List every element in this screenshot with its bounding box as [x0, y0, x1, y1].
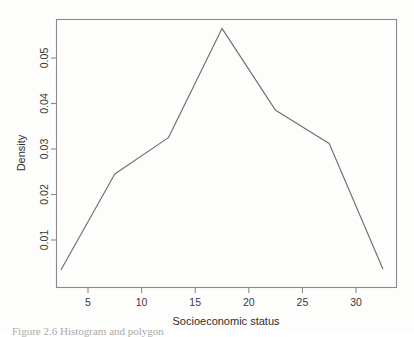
y-tick-label-1: 0.02 [38, 184, 50, 205]
y-tick-label-0: 0.01 [38, 230, 50, 251]
x-axis-title: Socioeconomic status [173, 315, 280, 327]
y-tick-label-2: 0.03 [38, 139, 50, 160]
x-tick-label-4: 25 [297, 296, 309, 308]
x-tick-label-1: 10 [136, 296, 148, 308]
x-tick-label-0: 5 [85, 296, 91, 308]
x-axis-ticks [88, 288, 356, 294]
x-tick-label-5: 30 [350, 296, 362, 308]
y-axis-title: Density [15, 134, 27, 171]
y-tick-label-3: 0.04 [38, 93, 50, 114]
y-axis-ticks [51, 58, 57, 240]
x-tick-label-2: 15 [189, 296, 201, 308]
x-axis-tick-labels: 5 10 15 20 25 30 [85, 296, 362, 308]
density-series-line [61, 28, 383, 269]
x-tick-label-3: 20 [243, 296, 255, 308]
plot-box [57, 20, 397, 288]
y-axis-tick-labels: 0.05 0.04 0.03 0.02 0.01 [38, 48, 50, 251]
figure-caption: Figure 2.6 Histogram and polygon [12, 325, 164, 337]
y-tick-label-4: 0.05 [38, 48, 50, 69]
